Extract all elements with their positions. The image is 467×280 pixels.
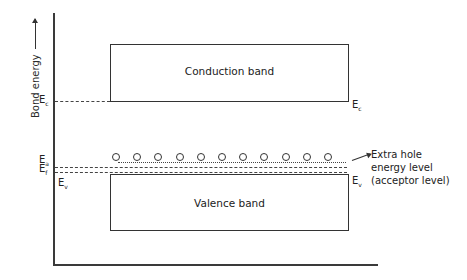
valence-band: Valence band	[110, 174, 349, 231]
hole-circle-icon	[218, 153, 226, 161]
valence-band-label: Valence band	[111, 197, 348, 209]
annotation-arrow-icon	[352, 154, 370, 161]
hole-circle-icon	[154, 153, 162, 161]
hole-circle-icon	[133, 153, 141, 161]
hole-circle-icon	[197, 153, 205, 161]
up-arrow-icon	[35, 19, 36, 49]
annotation-line-2: energy level	[371, 161, 450, 174]
conduction-band-label: Conduction band	[111, 65, 348, 77]
holes-row	[110, 153, 350, 163]
ev-label-right: Ev	[352, 176, 362, 188]
acceptor-annotation: Extra hole energy level (acceptor level)	[371, 148, 450, 187]
hole-circle-icon	[176, 153, 184, 161]
conduction-band: Conduction band	[110, 44, 349, 102]
hole-circle-icon	[112, 153, 120, 161]
annotation-line-1: Extra hole	[371, 148, 450, 161]
hole-circle-icon	[303, 153, 311, 161]
ec-dashed-line	[55, 101, 110, 102]
ec-label-left: Ec	[39, 95, 49, 107]
annotation-line-3: (acceptor level)	[371, 174, 450, 187]
ev-dashed-line	[55, 172, 347, 173]
ev-label-left: Ev	[58, 178, 68, 190]
hole-circle-icon	[260, 153, 268, 161]
hole-circle-icon	[239, 153, 247, 161]
ec-label-right: Ec	[352, 100, 362, 112]
y-axis-label-text: Bond energy	[30, 54, 41, 118]
hole-circle-icon	[282, 153, 290, 161]
x-axis	[53, 264, 378, 266]
ef-dashed-line	[55, 167, 347, 168]
ef-label: Ef	[39, 164, 47, 176]
hole-circle-icon	[324, 153, 332, 161]
y-axis	[53, 13, 55, 265]
